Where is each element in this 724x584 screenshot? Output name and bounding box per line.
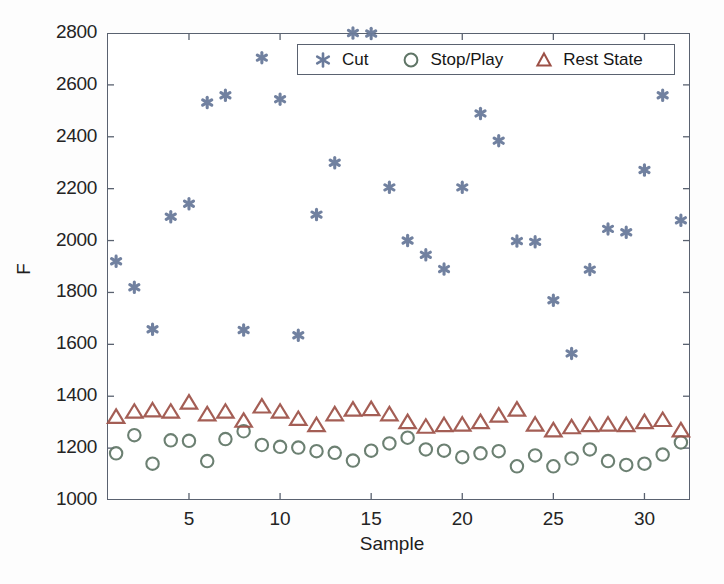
circle-marker-icon — [398, 47, 424, 73]
y-tick-label: 1600 — [23, 332, 97, 354]
legend-label-stop-play: Stop/Play — [430, 50, 503, 70]
x-tick-label: 20 — [442, 508, 482, 530]
legend-label-cut: Cut — [342, 50, 368, 70]
scatter-plot-figure: 1000120014001600180020002200240026002800… — [0, 0, 724, 584]
x-tick-label: 15 — [351, 508, 391, 530]
x-axis-label-text: Sample — [360, 533, 424, 555]
x-axis-label: Sample — [0, 533, 724, 555]
chart-legend[interactable]: Cut Stop/Play Rest State — [297, 44, 675, 75]
x-tick-label: 10 — [260, 508, 300, 530]
legend-entry-rest-state[interactable]: Rest State — [531, 45, 642, 74]
legend-entry-stop-play[interactable]: Stop/Play — [398, 45, 503, 74]
y-tick-label: 2200 — [23, 177, 97, 199]
y-tick-label: 1400 — [23, 384, 97, 406]
asterisk-marker-icon — [310, 47, 336, 73]
y-tick-label: 1200 — [23, 436, 97, 458]
y-tick-label: 2400 — [23, 125, 97, 147]
x-tick-label: 30 — [624, 508, 664, 530]
triangle-marker-icon — [531, 47, 557, 73]
x-tick-label: 25 — [533, 508, 573, 530]
y-tick-label: 2600 — [23, 73, 97, 95]
y-tick-label: 2000 — [23, 229, 97, 251]
y-tick-label: 2800 — [23, 21, 97, 43]
plot-area — [107, 33, 690, 500]
legend-label-rest-state: Rest State — [563, 50, 642, 70]
y-tick-label: 1000 — [23, 488, 97, 510]
y-axis-label: F — [13, 263, 35, 275]
x-tick-label: 5 — [169, 508, 209, 530]
y-tick-label: 1800 — [23, 280, 97, 302]
legend-entry-cut[interactable]: Cut — [310, 45, 368, 74]
